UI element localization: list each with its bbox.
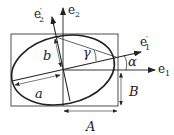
label-e2-prime: e′2 xyxy=(34,6,44,24)
label-gamma: γ xyxy=(83,45,91,60)
label-B: B xyxy=(128,84,139,99)
label-A: A xyxy=(85,119,95,134)
label-e1-prime: e′1 xyxy=(140,34,150,52)
gamma-arc xyxy=(94,50,96,61)
e2-prime-axis xyxy=(52,17,70,101)
alpha-arc xyxy=(124,55,127,70)
label-b: b xyxy=(43,48,51,63)
label-e2: e2 xyxy=(68,3,80,19)
label-alpha: α xyxy=(128,54,137,69)
ellipse-diagram: e2 e′2 e′1 e1 b a γ α B A xyxy=(0,0,174,135)
a-dimension xyxy=(15,75,60,85)
e1-prime-axis xyxy=(12,52,141,81)
label-a: a xyxy=(35,86,43,101)
label-e1: e1 xyxy=(158,62,170,78)
